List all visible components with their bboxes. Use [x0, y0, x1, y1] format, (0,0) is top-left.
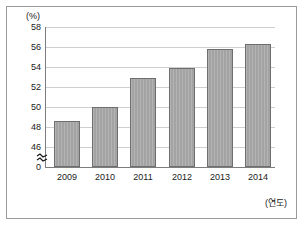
y-tick-56: 56: [31, 43, 41, 52]
bars-layer: [45, 27, 274, 167]
y-tick-54: 54: [31, 63, 41, 72]
y-tick-0: 0: [36, 163, 41, 172]
bar-2010: [92, 107, 118, 167]
y-axis-tick-labels: 58 56 54 52 50 48 46 0: [16, 0, 41, 233]
y-tick-48: 48: [31, 123, 41, 132]
chart-figure: (%) 58 56 54 52 50 48 46 0 2009 201: [0, 0, 303, 233]
y-tick-52: 52: [31, 83, 41, 92]
x-axis-line: [45, 167, 275, 168]
bar-2014: [245, 44, 271, 167]
bar-2011: [130, 78, 156, 167]
bar-2012: [169, 68, 195, 167]
y-tick-58: 58: [31, 23, 41, 32]
x-axis-caption: (연도): [265, 196, 287, 209]
bar-2013: [207, 49, 233, 167]
x-tick-2012: 2012: [162, 172, 202, 182]
y-tick-50: 50: [31, 103, 41, 112]
x-axis-tick-labels: 2009 2010 2011 2012 2013 2014: [45, 172, 274, 186]
bar-2009: [54, 121, 80, 167]
x-tick-2010: 2010: [85, 172, 125, 182]
x-tick-2011: 2011: [123, 172, 163, 182]
x-tick-2014: 2014: [238, 172, 278, 182]
x-tick-2013: 2013: [200, 172, 240, 182]
x-tick-2009: 2009: [47, 172, 87, 182]
